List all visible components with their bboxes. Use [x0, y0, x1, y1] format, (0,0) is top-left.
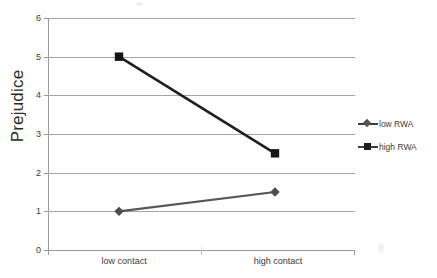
legend-label-low-rwa: low RWA — [378, 119, 413, 129]
scan-artifact-top — [136, 2, 143, 6]
series-line-high-rwa — [119, 57, 275, 154]
legend-item-low-rwa: low RWA — [358, 112, 437, 135]
legend-square-marker-icon — [358, 141, 378, 153]
scan-artifact-bottom-right — [378, 243, 384, 252]
chart-legend: low RWA high RWA — [358, 112, 437, 158]
legend-diamond-marker-icon — [358, 118, 378, 130]
line-chart-figure: Prejudice 6 5 4 3 2 1 0 low contact high… — [0, 0, 437, 278]
series-marker-low-rwa-high-contact — [270, 187, 279, 196]
legend-item-high-rwa: high RWA — [358, 135, 437, 158]
series-marker-high-rwa-low-contact — [115, 52, 123, 60]
series-marker-low-rwa-low-contact — [114, 207, 123, 216]
scan-artifact-axis — [200, 247, 204, 250]
legend-label-high-rwa: high RWA — [378, 142, 417, 152]
series-line-low-rwa — [119, 192, 275, 211]
series-marker-high-rwa-high-contact — [271, 149, 279, 157]
